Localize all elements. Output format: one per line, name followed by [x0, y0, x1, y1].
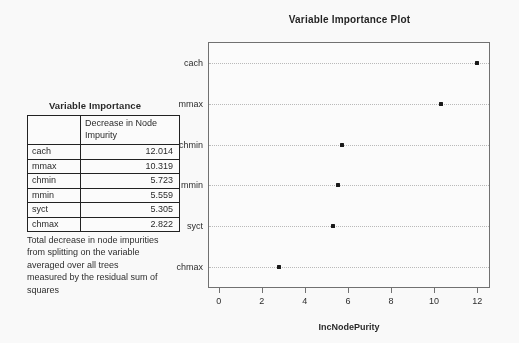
table-cell-impurity-value: 12.014	[81, 145, 180, 160]
variable-importance-plot-panel: Variable Importance Plot cachmmaxchminmm…	[180, 8, 519, 343]
y-axis-label-chmax: chmax	[176, 262, 203, 272]
gridline-mmax	[209, 104, 489, 105]
x-axis-tick-label-10: 10	[429, 296, 439, 306]
page-canvas: Variable Importance Decrease in Node Imp…	[0, 0, 519, 343]
plot-area: cachmmaxchminmminsyctchmax024681012	[208, 42, 490, 288]
table-title: Variable Importance	[27, 100, 163, 111]
table-row: chmax2.822	[28, 217, 180, 232]
data-point-syct	[331, 224, 335, 228]
table-caption: Total decrease in node impurities from s…	[27, 234, 159, 296]
table-cell-variable-name: mmin	[28, 188, 81, 203]
data-point-mmax	[439, 102, 443, 106]
x-axis-tick-12	[477, 287, 478, 293]
table-cell-impurity-value: 5.305	[81, 203, 180, 218]
table-cell-variable-name: chmin	[28, 174, 81, 189]
x-axis-tick-10	[434, 287, 435, 293]
table-row: chmin5.723	[28, 174, 180, 189]
x-axis-tick-label-6: 6	[345, 296, 350, 306]
x-axis-tick-label-2: 2	[259, 296, 264, 306]
data-point-chmin	[340, 143, 344, 147]
table-cell-impurity-value: 10.319	[81, 159, 180, 174]
x-axis-tick-2	[262, 287, 263, 293]
table-row: syct5.305	[28, 203, 180, 218]
table-cell-variable-name: cach	[28, 145, 81, 160]
y-axis-label-syct: syct	[187, 221, 203, 231]
variable-importance-table-panel: Variable Importance Decrease in Node Imp…	[27, 100, 163, 296]
y-axis-label-chmin: chmin	[179, 140, 203, 150]
x-axis-tick-4	[305, 287, 306, 293]
variable-importance-table: Decrease in Node Impurity cach12.014mmax…	[27, 115, 180, 232]
chart-title: Variable Importance Plot	[180, 14, 519, 25]
data-point-chmax	[277, 265, 281, 269]
table-cell-impurity-value: 2.822	[81, 217, 180, 232]
x-axis-tick-label-4: 4	[302, 296, 307, 306]
table-row: mmin5.559	[28, 188, 180, 203]
gridline-cach	[209, 63, 489, 64]
column-header-decrease-in-node-impurity: Decrease in Node Impurity	[81, 116, 180, 145]
table-cell-impurity-value: 5.723	[81, 174, 180, 189]
x-axis-tick-label-12: 12	[472, 296, 482, 306]
y-axis-label-cach: cach	[184, 58, 203, 68]
x-axis-tick-6	[348, 287, 349, 293]
gridline-chmin	[209, 145, 489, 146]
table-cell-variable-name: syct	[28, 203, 81, 218]
data-point-cach	[475, 61, 479, 65]
gridline-mmin	[209, 185, 489, 186]
x-axis-title: IncNodePurity	[208, 322, 490, 332]
table-row: mmax10.319	[28, 159, 180, 174]
table-header-row: Decrease in Node Impurity	[28, 116, 180, 145]
table-row: cach12.014	[28, 145, 180, 160]
table-head: Decrease in Node Impurity	[28, 116, 180, 145]
data-point-mmin	[336, 183, 340, 187]
y-axis-label-mmax: mmax	[179, 99, 204, 109]
gridline-chmax	[209, 267, 489, 268]
table-cell-variable-name: mmax	[28, 159, 81, 174]
table-cell-variable-name: chmax	[28, 217, 81, 232]
x-axis-tick-0	[219, 287, 220, 293]
y-axis-label-mmin: mmin	[181, 180, 203, 190]
table-body: cach12.014mmax10.319chmin5.723mmin5.559s…	[28, 145, 180, 232]
x-axis-tick-label-0: 0	[216, 296, 221, 306]
x-axis-tick-8	[391, 287, 392, 293]
x-axis-tick-label-8: 8	[388, 296, 393, 306]
table-cell-impurity-value: 5.559	[81, 188, 180, 203]
column-header-variable	[28, 116, 81, 145]
gridline-syct	[209, 226, 489, 227]
